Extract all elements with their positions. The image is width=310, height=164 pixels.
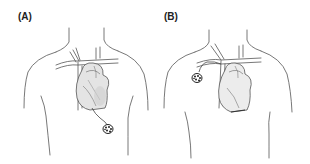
panel-a: (A) bbox=[0, 0, 155, 164]
shoulder-left-outline bbox=[24, 52, 56, 108]
torso-right-side bbox=[128, 96, 133, 155]
shoulder-right-outline bbox=[118, 51, 148, 110]
torso-illustration-b bbox=[155, 0, 310, 164]
heart-icon bbox=[219, 63, 252, 112]
neck-right-outline bbox=[104, 28, 118, 51]
heart-icon bbox=[76, 63, 109, 110]
pacemaker-device-icon bbox=[103, 125, 113, 134]
torso-illustration-a bbox=[0, 0, 155, 164]
pacemaker-device-icon bbox=[192, 74, 202, 83]
lead-wire bbox=[92, 108, 108, 126]
neck-left-outline bbox=[56, 28, 69, 52]
panel-b: (B) bbox=[155, 0, 310, 164]
torso-left-side bbox=[41, 96, 50, 155]
